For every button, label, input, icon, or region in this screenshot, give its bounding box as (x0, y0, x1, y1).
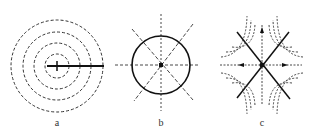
panel-a-graphic (11, 20, 104, 112)
panel-b-graphic (115, 14, 200, 111)
panel-b-label: b (151, 117, 171, 128)
panel-c-graphic (220, 16, 303, 114)
panel-c-label: c (252, 117, 272, 128)
panel-a-label: a (47, 117, 67, 128)
